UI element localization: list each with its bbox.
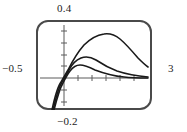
y-max-label: 0.4: [57, 3, 71, 14]
x-max-label: 3: [168, 63, 174, 74]
curve-2: [53, 57, 148, 110]
y-min-label: −0.2: [57, 116, 78, 127]
figure-container: 0.4 −0.2 −0.5 3: [0, 0, 187, 132]
plot-canvas: [36, 20, 152, 110]
x-min-label: −0.5: [2, 63, 23, 74]
